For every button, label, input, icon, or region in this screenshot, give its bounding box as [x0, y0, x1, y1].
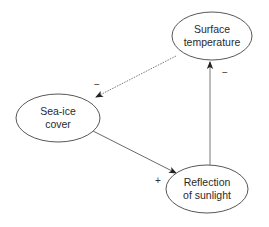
node-label-line2: temperature: [184, 36, 241, 48]
edge-seaice-to-reflection: [93, 131, 176, 173]
edge-surface-to-seaice: [96, 56, 176, 97]
sign-surface-seaice: −: [94, 79, 100, 90]
node-surface-temperature: Surface temperature: [172, 12, 252, 60]
sign-reflection-surface: −: [222, 67, 228, 78]
feedback-diagram: − + − Surface temperature Sea-ice cover …: [0, 0, 269, 227]
sign-seaice-reflection: +: [155, 175, 161, 186]
node-reflection-of-sunlight: Reflection of sunlight: [166, 165, 248, 213]
node-label-line2: cover: [45, 118, 71, 130]
node-label-line1: Surface: [194, 23, 230, 35]
node-label-line2: of sunlight: [183, 189, 231, 201]
node-label-line1: Reflection: [184, 176, 231, 188]
node-label-line1: Sea-ice: [40, 105, 76, 117]
node-sea-ice-cover: Sea-ice cover: [16, 94, 100, 142]
